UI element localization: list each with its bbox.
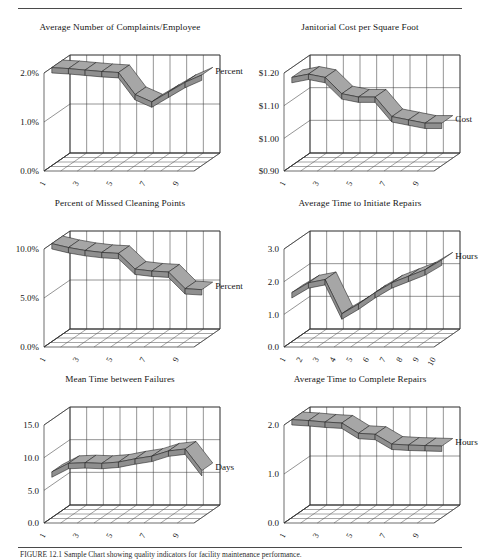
x-axis-tick-label: 3 bbox=[311, 356, 321, 364]
y-axis-tick-label: $1.00 bbox=[259, 134, 280, 144]
y-axis-tick-label: $1.20 bbox=[259, 68, 280, 78]
y-axis-tick-label: 5.0% bbox=[20, 293, 39, 303]
x-axis-tick-label: 6 bbox=[361, 356, 371, 364]
y-axis-tick-label: 2.0 bbox=[268, 420, 280, 430]
chart-grid: Average Number of Complaints/Employee 0.… bbox=[0, 14, 480, 544]
x-axis-tick-label: 7 bbox=[378, 532, 388, 540]
x-axis-tick-label: 5 bbox=[105, 356, 115, 364]
x-axis-tick-label: 9 bbox=[171, 180, 181, 188]
series-legend-label: Days bbox=[215, 462, 234, 472]
chart-title: Percent of Missed Cleaning Points bbox=[0, 198, 240, 208]
y-axis-tick-label: 0.0 bbox=[268, 518, 280, 528]
y-axis-tick-label: 15.0 bbox=[23, 420, 39, 430]
chart-panel-mean-time-between-failures: Mean Time between Failures 0.05.010.015.… bbox=[0, 366, 240, 551]
x-axis-tick-label: 1 bbox=[278, 180, 288, 188]
y-axis-tick-label: $1.10 bbox=[259, 101, 280, 111]
y-axis-tick-label: 0.0 bbox=[28, 518, 40, 528]
x-axis-tick-label: 5 bbox=[345, 356, 355, 364]
header-rule bbox=[18, 8, 462, 9]
chart-plot: 0.01.02.013579Hours bbox=[240, 386, 480, 551]
chart-panel-missed-cleaning-points: Percent of Missed Cleaning Points 0.0%5.… bbox=[0, 190, 240, 375]
chart-plot: 0.0%5.0%10.0%13579Percent bbox=[0, 210, 240, 375]
x-axis-tick-label: 2 bbox=[295, 356, 305, 364]
y-axis-tick-label: 10.0% bbox=[16, 244, 40, 254]
chart-title: Average Time to Complete Repairs bbox=[240, 374, 480, 384]
chart-panel-time-to-complete-repairs: Average Time to Complete Repairs 0.01.02… bbox=[240, 366, 480, 551]
x-axis-tick-label: 3 bbox=[311, 180, 321, 188]
chart-plot: 0.01.02.03.012345678910Hours bbox=[240, 210, 480, 375]
chart-panel-time-to-initiate-repairs: Average Time to Initiate Repairs 0.01.02… bbox=[240, 190, 480, 375]
x-axis-tick-label: 7 bbox=[138, 356, 148, 364]
y-axis-tick-label: 1.0% bbox=[20, 117, 39, 127]
x-axis-tick-label: 9 bbox=[411, 180, 421, 188]
chart-title: Mean Time between Failures bbox=[0, 374, 240, 384]
x-axis-tick-label: 9 bbox=[171, 532, 181, 540]
x-axis-tick-label: 1 bbox=[38, 356, 48, 364]
series-legend-label: Hours bbox=[455, 251, 478, 261]
x-axis-tick-label: 3 bbox=[71, 532, 81, 540]
chart-title: Average Number of Complaints/Employee bbox=[0, 22, 240, 32]
x-axis-tick-label: 5 bbox=[345, 180, 355, 188]
x-axis-tick-label: 1 bbox=[38, 532, 48, 540]
x-axis-tick-label: 7 bbox=[138, 180, 148, 188]
chart-plot: 0.05.010.015.013579Days bbox=[0, 386, 240, 551]
y-axis-tick-label: 5.0 bbox=[28, 486, 40, 496]
footer-rule bbox=[18, 547, 462, 548]
y-axis-tick-label: 3.0 bbox=[268, 244, 280, 254]
x-axis-tick-label: 3 bbox=[71, 180, 81, 188]
x-axis-tick-label: 7 bbox=[378, 356, 388, 364]
y-axis-tick-label: $0.90 bbox=[259, 166, 280, 176]
y-axis-tick-label: 0.0% bbox=[20, 166, 39, 176]
chart-plot: 0.0%1.0%2.0%13579Percent bbox=[0, 34, 240, 199]
x-axis-tick-label: 5 bbox=[105, 180, 115, 188]
chart-title: Average Time to Initiate Repairs bbox=[240, 198, 480, 208]
y-axis-tick-label: 1.0 bbox=[268, 310, 280, 320]
chart-panel-janitorial-cost: Janitorial Cost per Square Foot $0.90$1.… bbox=[240, 14, 480, 199]
x-axis-tick-label: 3 bbox=[311, 532, 321, 540]
x-axis-tick-label: 8 bbox=[395, 356, 405, 364]
series-legend-label: Cost bbox=[455, 114, 472, 124]
y-axis-tick-label: 2.0 bbox=[268, 277, 280, 287]
x-axis-tick-label: 1 bbox=[278, 532, 288, 540]
x-axis-tick-label: 5 bbox=[105, 532, 115, 540]
x-axis-tick-label: 9 bbox=[411, 532, 421, 540]
chart-title: Janitorial Cost per Square Foot bbox=[240, 22, 480, 32]
series-legend-label: Hours bbox=[455, 437, 478, 447]
figure-caption: FIGURE 12.1 Sample Chart showing quality… bbox=[20, 550, 460, 559]
x-axis-tick-label: 7 bbox=[138, 532, 148, 540]
y-axis-tick-label: 0.0 bbox=[268, 342, 280, 352]
x-axis-tick-label: 5 bbox=[345, 532, 355, 540]
x-axis-tick-label: 7 bbox=[378, 180, 388, 188]
x-axis-tick-label: 9 bbox=[411, 356, 421, 364]
chart-panel-complaints: Average Number of Complaints/Employee 0.… bbox=[0, 14, 240, 199]
y-axis-tick-label: 10.0 bbox=[23, 453, 39, 463]
y-axis-tick-label: 2.0% bbox=[20, 68, 39, 78]
x-axis-tick-label: 1 bbox=[38, 180, 48, 188]
y-axis-tick-label: 1.0 bbox=[268, 469, 280, 479]
x-axis-tick-label: 3 bbox=[71, 356, 81, 364]
x-axis-tick-label: 1 bbox=[278, 356, 288, 364]
x-axis-tick-label: 9 bbox=[171, 356, 181, 364]
x-axis-tick-label: 4 bbox=[328, 355, 338, 364]
y-axis-tick-label: 0.0% bbox=[20, 342, 39, 352]
chart-plot: $0.90$1.00$1.10$1.2013579Cost bbox=[240, 34, 480, 199]
